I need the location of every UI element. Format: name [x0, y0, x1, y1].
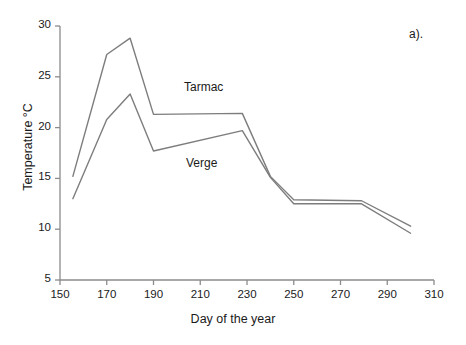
x-axis-tick-label: 190: [134, 288, 174, 300]
axis-spine: [60, 26, 434, 280]
x-axis-tick-label: 310: [414, 288, 454, 300]
x-axis-tick-label: 210: [180, 288, 220, 300]
x-axis-tick-label: 230: [227, 288, 267, 300]
series-line-verge: [73, 94, 411, 233]
y-axis-tick-label: 20: [25, 120, 51, 132]
series-label-verge: Verge: [186, 156, 217, 170]
y-axis-title: Temperature °C: [21, 57, 35, 237]
chart-figure: a). Tarmac Verge Day of the year Tempera…: [0, 0, 466, 345]
x-axis-tick-label: 170: [87, 288, 127, 300]
series-line-tarmac: [73, 38, 411, 226]
cropped-header-text: [22, 0, 252, 3]
x-axis-tick-label: 290: [367, 288, 407, 300]
axis-group: [55, 26, 434, 285]
series-label-tarmac: Tarmac: [184, 80, 223, 94]
series-group: [73, 38, 411, 233]
panel-label: a).: [409, 27, 423, 41]
y-axis-tick-label: 30: [25, 18, 51, 30]
y-axis-tick-label: 25: [25, 69, 51, 81]
x-axis-title: Day of the year: [0, 312, 466, 326]
y-axis-tick-label: 15: [25, 170, 51, 182]
x-axis-tick-label: 150: [40, 288, 80, 300]
x-axis-tick-label: 250: [274, 288, 314, 300]
y-axis-tick-label: 10: [25, 221, 51, 233]
y-axis-tick-label: 5: [25, 272, 51, 284]
x-axis-tick-label: 270: [321, 288, 361, 300]
